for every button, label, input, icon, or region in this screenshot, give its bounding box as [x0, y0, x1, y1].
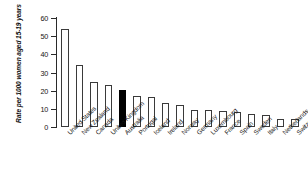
- y-axis-tick-label: 60: [24, 14, 48, 23]
- y-axis-tick-label: 30: [24, 69, 48, 78]
- y-axis-tick-label: 40: [24, 50, 48, 59]
- y-axis-tick-label: 20: [24, 87, 48, 96]
- y-axis-tick-mark: [51, 127, 56, 128]
- bar-netherlands: [277, 119, 284, 127]
- y-axis-tick-label: 0: [24, 123, 48, 132]
- bar-united-states: [61, 29, 68, 127]
- y-axis-tick-label: 10: [24, 105, 48, 114]
- teenage-birth-rate-bar-chart: Rate per 1000 women aged 15-19 years 010…: [0, 0, 308, 190]
- y-axis-title: Rate per 1000 women aged 15-19 years: [15, 0, 22, 129]
- y-axis-tick-label: 50: [24, 32, 48, 41]
